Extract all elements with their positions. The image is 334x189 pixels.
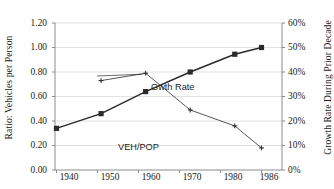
x-tick-label: 1980 — [213, 172, 253, 182]
x-tick-label: 1950 — [90, 172, 130, 182]
plot-canvas — [55, 23, 282, 170]
y-axis-left-title: Ratio: Vehicles per Person — [2, 0, 16, 175]
y-right-tick-label: 50% — [288, 42, 318, 52]
y-right-tick-label: 30% — [288, 91, 318, 101]
data-point-marker — [98, 111, 103, 116]
x-tick-label: 1940 — [49, 172, 89, 182]
plot-area: Gwth Rate VEH/POP — [55, 23, 282, 170]
y-left-tick-label: 0.00 — [17, 165, 47, 175]
data-point-marker — [232, 52, 237, 57]
y-left-tick-label: 0.60 — [17, 91, 47, 101]
y-right-tick-label: 10% — [288, 140, 318, 150]
y-left-tick-label: 0.20 — [17, 140, 47, 150]
y-left-tick-label: 1.20 — [17, 18, 47, 28]
data-point-marker — [259, 45, 264, 50]
y-right-tick-label: 60% — [288, 18, 318, 28]
y-right-tick-label: 0% — [288, 165, 318, 175]
series-label-veh-pop: VEH/POP — [118, 142, 159, 152]
data-point-marker — [54, 126, 59, 131]
y-left-tick-label: 0.80 — [17, 67, 47, 77]
y-left-tick-label: 1.00 — [17, 42, 47, 52]
x-tick-label: 1960 — [131, 172, 171, 182]
y-right-tick-label: 20% — [288, 116, 318, 126]
y-right-tick-label: 40% — [288, 67, 318, 77]
y-axis-right-title: Growth Rate During Prior Decade — [320, 0, 334, 175]
data-point-marker — [143, 89, 148, 94]
chart-figure: Ratio: Vehicles per Person Growth Rate D… — [0, 0, 334, 189]
data-point-marker — [188, 69, 193, 74]
y-axis-left-title-text: Ratio: Vehicles per Person — [4, 36, 15, 140]
y-axis-right-title-text: Growth Rate During Prior Decade — [322, 20, 333, 155]
x-tick-label: 1970 — [172, 172, 212, 182]
series-label-gwth-rate: Gwth Rate — [151, 82, 194, 92]
x-tick-label: 1986 — [249, 172, 289, 182]
y-left-tick-label: 0.40 — [17, 116, 47, 126]
